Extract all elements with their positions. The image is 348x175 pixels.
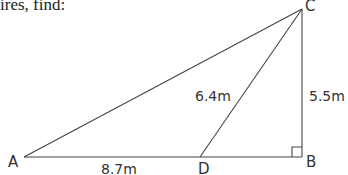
measure-ad: 8.7m (101, 161, 137, 175)
side-ac (24, 9, 302, 157)
right-angle-marker-icon (292, 147, 302, 157)
vertex-label-b: B (306, 153, 316, 171)
segment-dc (200, 9, 302, 157)
vertex-label-a: A (8, 153, 19, 171)
vertex-label-c: C (305, 0, 315, 15)
measure-bc: 5.5m (309, 88, 345, 104)
triangle-diagram: A B C D 8.7m 6.4m 5.5m (0, 0, 348, 175)
vertex-label-d: D (198, 160, 210, 175)
measure-dc: 6.4m (195, 88, 231, 104)
